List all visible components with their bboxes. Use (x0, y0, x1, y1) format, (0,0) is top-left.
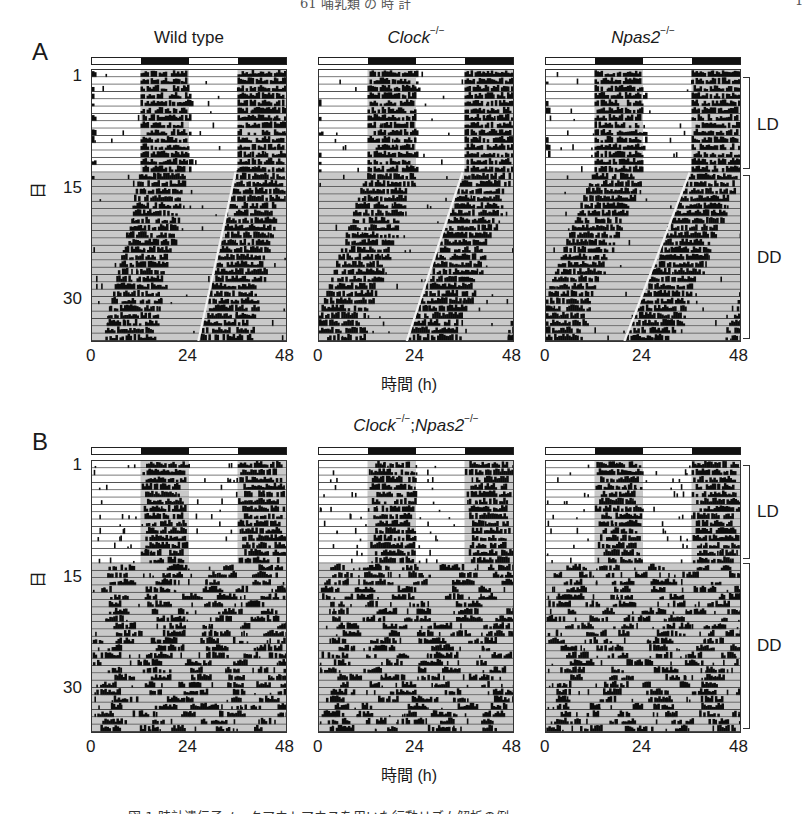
bracket-dd (743, 563, 750, 729)
bracket-dd (743, 175, 750, 339)
genotype-sup: −/− (464, 413, 478, 424)
y-tick-30: 30 (52, 289, 82, 309)
label-ld: LD (757, 502, 779, 522)
light-dark-bar (91, 57, 287, 65)
actogram-clock-ko (318, 69, 514, 342)
x-tick-0: 0 (540, 737, 549, 757)
panel-letter-a: A (32, 38, 48, 66)
y-tick-1: 1 (52, 66, 82, 86)
title-npas2-ko: Npas2−/− (545, 28, 741, 48)
actogram-double-ko-3 (545, 460, 741, 733)
gene-name: Npas2 (611, 28, 660, 47)
x-tick-24: 24 (405, 346, 424, 366)
y-tick-15: 15 (52, 178, 82, 198)
actogram-double-ko-1 (91, 460, 287, 733)
bracket-ld (743, 465, 750, 559)
title-clock-ko: Clock−/− (318, 28, 514, 48)
y-tick-15: 15 (52, 567, 82, 587)
light-dark-bar (545, 447, 741, 455)
x-tick-24: 24 (178, 346, 197, 366)
light-dark-bar (318, 447, 514, 455)
actogram-npas2-ko (545, 69, 741, 342)
label-ld: LD (757, 115, 779, 135)
x-tick-0: 0 (313, 737, 322, 757)
actogram-wild-type (91, 69, 287, 342)
x-tick-48: 48 (729, 737, 748, 757)
x-tick-24: 24 (632, 346, 651, 366)
title-double-ko: Clock−/−;Npas2−/− (318, 416, 514, 436)
x-tick-0: 0 (540, 346, 549, 366)
genotype-sup: −/− (660, 25, 674, 36)
x-tick-48: 48 (275, 737, 294, 757)
x-axis-label: 時間 (h) (381, 762, 437, 786)
x-tick-0: 0 (86, 346, 95, 366)
x-tick-24: 24 (178, 737, 197, 757)
y-tick-30: 30 (52, 678, 82, 698)
x-tick-0: 0 (86, 737, 95, 757)
x-tick-48: 48 (502, 346, 521, 366)
x-tick-48: 48 (275, 346, 294, 366)
title-wild-type: Wild type (91, 28, 287, 48)
y-tick-1: 1 (52, 455, 82, 475)
label-dd: DD (757, 248, 782, 268)
figure-caption: 図 1 時計遺伝子ノックアウトマウスを用いた行動リズム解析の例 (128, 806, 509, 814)
y-axis-label: 日 (24, 571, 49, 588)
y-axis-label: 日 (24, 182, 49, 199)
x-tick-48: 48 (502, 737, 521, 757)
genotype-sup: −/− (396, 413, 410, 424)
gene-name: Clock (353, 416, 396, 435)
running-head: 61 哺乳類 の 時 計 (300, 0, 411, 12)
x-tick-24: 24 (405, 737, 424, 757)
panel-letter-b: B (32, 428, 48, 456)
x-axis-label: 時間 (h) (381, 371, 437, 395)
light-dark-bar (318, 57, 514, 65)
gene-name: Clock (388, 28, 431, 47)
light-dark-bar (91, 447, 287, 455)
label-dd: DD (757, 636, 782, 656)
light-dark-bar (545, 57, 741, 65)
x-tick-0: 0 (313, 346, 322, 366)
title-text: Wild type (154, 28, 224, 47)
bracket-ld (743, 77, 750, 169)
actogram-double-ko-2 (318, 460, 514, 733)
x-tick-24: 24 (632, 737, 651, 757)
x-tick-48: 48 (729, 346, 748, 366)
page-number: 1 (795, 0, 803, 8)
genotype-sup: −/− (430, 25, 444, 36)
gene-name: Npas2 (415, 416, 464, 435)
